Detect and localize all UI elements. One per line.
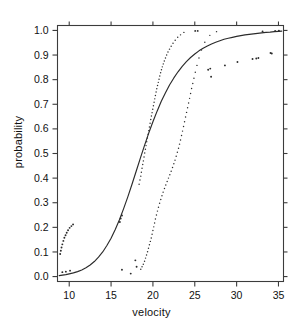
data-point xyxy=(195,72,196,73)
data-point xyxy=(189,98,190,99)
y-axis-title-wrapper: probability xyxy=(8,87,26,197)
data-point xyxy=(145,149,146,150)
data-point xyxy=(151,234,152,235)
data-point xyxy=(187,107,188,108)
data-point xyxy=(194,30,196,32)
x-tick-label: 20 xyxy=(147,289,159,301)
data-point xyxy=(143,160,144,161)
y-tick-label: 0.7 xyxy=(34,98,49,110)
data-point xyxy=(159,75,160,76)
data-point xyxy=(172,167,173,168)
data-point xyxy=(151,237,152,238)
y-axis-title: probability xyxy=(12,116,24,168)
data-point xyxy=(159,203,160,204)
y-tick-label: 0.4 xyxy=(34,172,49,184)
data-point xyxy=(121,269,123,271)
x-tick-label: 25 xyxy=(189,289,201,301)
data-point xyxy=(155,218,156,219)
data-point xyxy=(147,251,148,252)
data-point xyxy=(144,261,145,262)
data-point xyxy=(163,63,164,64)
data-point xyxy=(252,58,254,60)
x-tick-label: 10 xyxy=(63,289,75,301)
data-point xyxy=(169,174,170,175)
data-point xyxy=(183,32,184,33)
data-point xyxy=(62,240,64,242)
data-point xyxy=(138,184,139,185)
data-point xyxy=(188,102,189,103)
data-point xyxy=(201,49,202,50)
data-point xyxy=(153,226,154,227)
data-point xyxy=(161,195,162,196)
data-point xyxy=(60,250,62,252)
data-point xyxy=(168,177,169,178)
y-tick-label: 0.6 xyxy=(34,122,49,134)
data-point xyxy=(262,30,264,32)
data-point xyxy=(156,214,157,215)
data-point xyxy=(271,53,273,55)
data-point xyxy=(152,230,153,231)
data-point xyxy=(119,221,121,223)
data-point xyxy=(148,248,149,249)
data-point xyxy=(204,42,205,43)
y-tick-label: 0.1 xyxy=(34,246,49,258)
data-point xyxy=(61,247,63,249)
data-point xyxy=(177,37,178,38)
data-point xyxy=(143,264,144,265)
data-point xyxy=(165,184,166,185)
data-point xyxy=(145,257,146,258)
data-point xyxy=(63,237,65,239)
chart-figure: 101520253035 0.00.10.20.30.40.50.60.70.8… xyxy=(0,0,303,330)
data-point xyxy=(177,152,178,153)
data-point xyxy=(164,60,165,61)
data-point xyxy=(186,112,187,113)
data-point xyxy=(149,244,150,245)
data-point xyxy=(197,30,199,32)
data-point xyxy=(185,116,186,117)
data-point xyxy=(70,225,72,227)
data-point xyxy=(170,171,171,172)
data-point xyxy=(121,215,123,217)
data-point xyxy=(153,105,154,106)
data-point xyxy=(209,35,210,36)
y-tick-label: 0.2 xyxy=(34,221,49,233)
y-tick-label: 0.9 xyxy=(34,49,49,61)
data-point xyxy=(160,199,161,200)
data-point xyxy=(65,271,67,273)
data-point xyxy=(136,266,138,268)
data-point xyxy=(141,266,142,267)
data-point xyxy=(139,179,140,180)
data-point xyxy=(152,108,153,109)
data-point xyxy=(274,30,276,32)
x-tick-label: 15 xyxy=(105,289,117,301)
data-point xyxy=(156,88,157,89)
data-point xyxy=(183,126,184,127)
data-point xyxy=(161,69,162,70)
data-point xyxy=(190,93,191,94)
data-point xyxy=(174,159,175,160)
data-point xyxy=(154,98,155,99)
data-point xyxy=(61,243,63,245)
x-axis-title: velocity xyxy=(0,306,303,318)
data-point xyxy=(151,112,152,113)
y-tick-label: 0.3 xyxy=(34,196,49,208)
data-point xyxy=(65,234,67,236)
data-point xyxy=(147,137,148,138)
data-point xyxy=(162,66,163,67)
data-point xyxy=(134,259,136,261)
data-point xyxy=(59,253,61,255)
data-point xyxy=(180,34,181,35)
data-point xyxy=(150,241,151,242)
data-point xyxy=(158,78,159,79)
data-point xyxy=(257,57,259,59)
data-point xyxy=(237,61,239,63)
y-tick-label: 0.8 xyxy=(34,73,49,85)
data-point xyxy=(198,57,199,58)
data-point xyxy=(141,168,142,169)
data-point xyxy=(149,126,150,127)
data-point xyxy=(140,175,141,176)
data-point xyxy=(207,69,209,71)
data-point xyxy=(155,95,156,96)
data-point xyxy=(173,163,174,164)
data-point xyxy=(216,31,217,32)
